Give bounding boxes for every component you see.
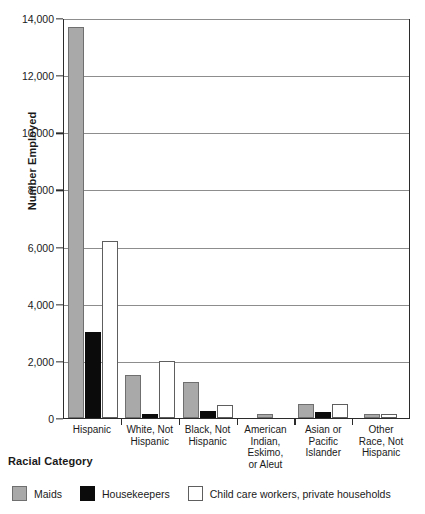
y-tick-mark (56, 75, 63, 76)
x-axis-label: OtherRace, NotHispanic (352, 424, 410, 470)
plot-wrap (63, 19, 410, 419)
x-axis-label: AmericanIndian,Eskimo,or Aleut (236, 424, 294, 470)
y-tick-mark (56, 247, 63, 248)
legend-swatch-icon (80, 486, 95, 501)
y-tick-label: 10,000 (0, 127, 54, 139)
bar-housekeepers[interactable] (315, 412, 331, 418)
legend-swatch-icon (12, 486, 27, 501)
y-axis-title: Number Employed (26, 81, 38, 241)
x-axis-title: Racial Category (8, 455, 93, 467)
y-tick-mark (56, 361, 63, 362)
bar-maids[interactable] (257, 414, 273, 418)
y-tick-label: 12,000 (0, 70, 54, 82)
plot-area (63, 19, 410, 419)
x-axis-label: White, NotHispanic (121, 424, 179, 470)
x-axis-label: Asian orPacificIslander (294, 424, 352, 470)
legend-label: Housekeepers (102, 488, 170, 500)
bar-group (64, 19, 122, 418)
bar-maids[interactable] (183, 382, 199, 418)
legend-swatch-icon (188, 486, 203, 501)
y-tick-label: 4,000 (0, 299, 54, 311)
bar-group (237, 19, 295, 418)
legend-label: Child care workers, private households (210, 488, 391, 500)
y-tick-mark (56, 304, 63, 305)
bar-groups (64, 19, 409, 418)
legend-item-maids[interactable]: Maids (12, 486, 62, 501)
y-tick-mark (56, 133, 63, 134)
bar-housekeepers[interactable] (85, 332, 101, 418)
bar-group (294, 19, 352, 418)
bar-childcare[interactable] (217, 405, 233, 418)
legend-item-childcare[interactable]: Child care workers, private households (188, 486, 391, 501)
bar-chart: Number Employed 02,0004,0006,0008,00010,… (0, 0, 425, 514)
x-axis-labels: HispanicWhite, NotHispanicBlack, NotHisp… (63, 424, 410, 470)
legend-label: Maids (34, 488, 62, 500)
bar-housekeepers[interactable] (142, 414, 158, 418)
y-tick-label: 14,000 (0, 13, 54, 25)
bar-group (352, 19, 410, 418)
y-tick-mark (56, 418, 63, 419)
legend-item-housekeepers[interactable]: Housekeepers (80, 486, 170, 501)
x-axis-label: Black, NotHispanic (179, 424, 237, 470)
bar-maids[interactable] (298, 404, 314, 418)
bar-group (179, 19, 237, 418)
y-tick-label: 2,000 (0, 356, 54, 368)
bar-maids[interactable] (364, 414, 380, 418)
chart-legend: MaidsHousekeepersChild care workers, pri… (12, 486, 391, 501)
bar-maids[interactable] (68, 27, 84, 418)
bar-maids[interactable] (125, 375, 141, 418)
y-tick-mark (56, 190, 63, 191)
bar-childcare[interactable] (332, 404, 348, 418)
bar-childcare[interactable] (102, 241, 118, 418)
y-tick-label: 6,000 (0, 242, 54, 254)
y-tick-mark (56, 18, 63, 19)
bar-childcare[interactable] (381, 414, 397, 418)
y-tick-label: 8,000 (0, 184, 54, 196)
bar-childcare[interactable] (159, 361, 175, 418)
bar-housekeepers[interactable] (200, 411, 216, 418)
bar-group (122, 19, 180, 418)
y-tick-label: 0 (0, 413, 54, 425)
